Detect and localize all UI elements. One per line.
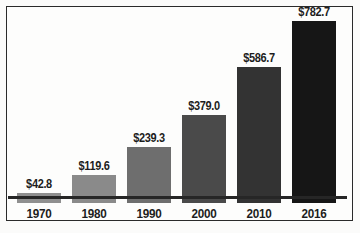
bar-value-label-2010: $586.7 [229, 51, 289, 65]
bar-rect-2000[interactable] [182, 115, 226, 203]
x-axis-baseline [8, 196, 347, 199]
bar-slot-2010: $586.7 [237, 8, 281, 203]
bar-value-label-2016: $782.7 [284, 5, 344, 19]
bar-rect-1980[interactable] [72, 175, 116, 203]
bar-slot-2000: $379.0 [182, 8, 226, 203]
bar-value-label-1980: $119.6 [64, 159, 124, 173]
category-label-1980: 1980 [63, 206, 124, 221]
category-label-1970: 1970 [8, 206, 69, 221]
category-label-1990: 1990 [118, 206, 179, 221]
bar-value-label-1970: $42.8 [9, 177, 69, 191]
plot-area: $42.8 $119.6 $239.3 $379.0 $586.7 $782.7 [17, 8, 347, 203]
bar-slot-1980: $119.6 [72, 8, 116, 203]
bar-slot-1990: $239.3 [127, 8, 171, 203]
category-label-2016: 2016 [283, 206, 344, 221]
bar-rect-2016[interactable] [292, 21, 336, 203]
category-label-2010: 2010 [228, 206, 289, 221]
bar-value-label-2000: $379.0 [174, 99, 234, 113]
bar-rect-2010[interactable] [237, 67, 281, 203]
bar-slot-2016: $782.7 [292, 8, 336, 203]
bar-rect-1990[interactable] [127, 147, 171, 203]
bar-chart-figure: $42.8 $119.6 $239.3 $379.0 $586.7 $782.7… [0, 0, 360, 233]
bar-value-label-1990: $239.3 [119, 131, 179, 145]
bar-slot-1970: $42.8 [17, 8, 61, 203]
category-axis: 1970 1980 1990 2000 2010 2016 [17, 206, 347, 230]
category-label-2000: 2000 [173, 206, 234, 221]
